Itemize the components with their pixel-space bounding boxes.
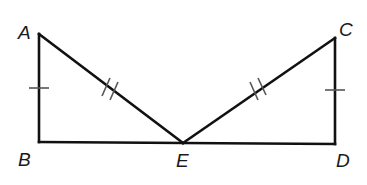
segment-ec [183, 38, 335, 143]
label-a: A [17, 22, 31, 43]
segment-be [39, 142, 183, 143]
double-tick-ec [250, 78, 266, 100]
geometry-diagram: A B E C D [0, 0, 367, 185]
segment-ae [39, 34, 183, 143]
label-c: C [339, 19, 353, 40]
label-d: D [336, 150, 350, 171]
label-b: B [18, 149, 31, 170]
label-e: E [176, 150, 189, 171]
segment-ed [183, 143, 335, 144]
